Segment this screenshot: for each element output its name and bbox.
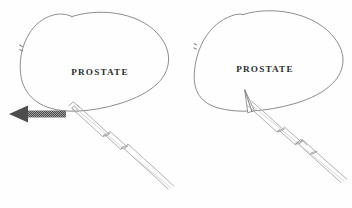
diagram-canvas	[0, 0, 352, 208]
diagram-background	[0, 0, 352, 208]
prostate-needle-diagram: PROSTATE PROSTATE	[0, 0, 352, 208]
